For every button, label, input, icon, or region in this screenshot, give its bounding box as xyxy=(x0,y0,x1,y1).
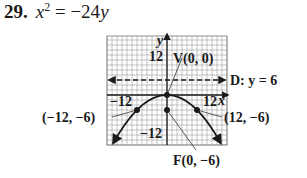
focus-label: F(0, −6) xyxy=(173,153,220,169)
directrix-label: D: y = 6 xyxy=(230,73,277,88)
right-latus-point xyxy=(194,107,200,113)
y-tick-neg12: −12 xyxy=(140,126,162,141)
left-latus-point xyxy=(134,107,140,113)
left-point-label: (−12, −6) xyxy=(42,110,96,126)
x-axis-label: x xyxy=(217,93,225,108)
y-tick-12: 12 xyxy=(149,49,163,64)
x-tick-neg12: −12 xyxy=(110,94,132,109)
focus-point xyxy=(164,107,170,113)
right-point-label: (12, −6) xyxy=(224,110,270,126)
x-tick-12: 12 xyxy=(203,94,217,109)
parabola-graph: y x 12 −12 −12 12 V(0, 0) D: y = 6 F(0, … xyxy=(0,0,307,178)
vertex-point xyxy=(164,92,170,98)
y-axis-label: y xyxy=(155,33,164,48)
vertex-label: V(0, 0) xyxy=(173,51,214,67)
